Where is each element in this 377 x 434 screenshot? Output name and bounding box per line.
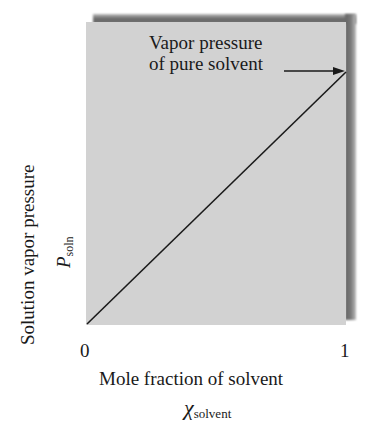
x-tick-0: 0 [80, 340, 90, 362]
x-symbol: χ [184, 395, 194, 420]
y-axis-symbol: Psoln [53, 236, 77, 268]
x-tick-1: 1 [340, 340, 350, 362]
y-axis-title: Solution vapor pressure [17, 165, 39, 345]
annotation-line1: Vapor pressure [149, 32, 263, 53]
x-axis-title: Mole fraction of solvent [99, 368, 283, 390]
x-symbol-sub: solvent [194, 406, 232, 421]
x-axis-symbol: χsolvent [184, 395, 231, 422]
raoult-line [87, 72, 346, 324]
y-symbol-sub: soln [62, 236, 76, 256]
annotation-line2: of pure solvent [149, 53, 263, 74]
y-symbol: P [53, 256, 74, 268]
annotation-label: Vapor pressure of pure solvent [149, 32, 263, 74]
